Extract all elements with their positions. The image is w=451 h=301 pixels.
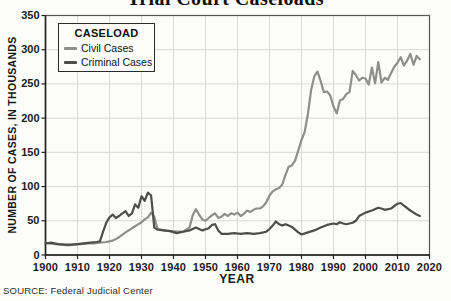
x-tick-label: 1930 bbox=[129, 261, 154, 273]
legend-label-criminal: Criminal Cases bbox=[81, 56, 152, 68]
legend-label-civil: Civil Cases bbox=[81, 42, 134, 54]
y-tick-label: 0 bbox=[6, 249, 40, 261]
y-tick-label: 350 bbox=[6, 9, 40, 21]
x-tick-label: 1920 bbox=[97, 261, 122, 273]
x-tick-label: 1900 bbox=[33, 261, 58, 273]
x-tick-label: 1950 bbox=[193, 261, 218, 273]
x-tick-label: 2010 bbox=[385, 261, 410, 273]
x-tick-label: 2020 bbox=[417, 261, 442, 273]
x-tick-label: 1970 bbox=[257, 261, 282, 273]
legend-item-criminal: Criminal Cases bbox=[59, 55, 154, 69]
civil-line-swatch bbox=[64, 47, 77, 50]
source-note: SOURCE: Federal Judicial Center bbox=[3, 285, 153, 296]
chart-figure: Trial Court Caseloads 050100150200250300… bbox=[0, 0, 451, 301]
x-axis-title: YEAR bbox=[219, 272, 255, 286]
civil-cases-line bbox=[46, 54, 420, 246]
y-axis-title: NUMBER OF CASES, IN THOUSANDS bbox=[6, 36, 18, 233]
legend-title: CASELOAD bbox=[59, 27, 154, 39]
criminal-cases-line bbox=[46, 193, 420, 245]
legend-item-civil: Civil Cases bbox=[59, 41, 154, 55]
x-tick-label: 1940 bbox=[161, 261, 186, 273]
x-tick-label: 1910 bbox=[65, 261, 90, 273]
x-tick-label: 1980 bbox=[289, 261, 314, 273]
x-tick-label: 1990 bbox=[321, 261, 346, 273]
x-tick-label: 2000 bbox=[353, 261, 378, 273]
criminal-line-swatch bbox=[64, 61, 77, 64]
legend-box: CASELOAD Civil Cases Criminal Cases bbox=[58, 23, 155, 72]
